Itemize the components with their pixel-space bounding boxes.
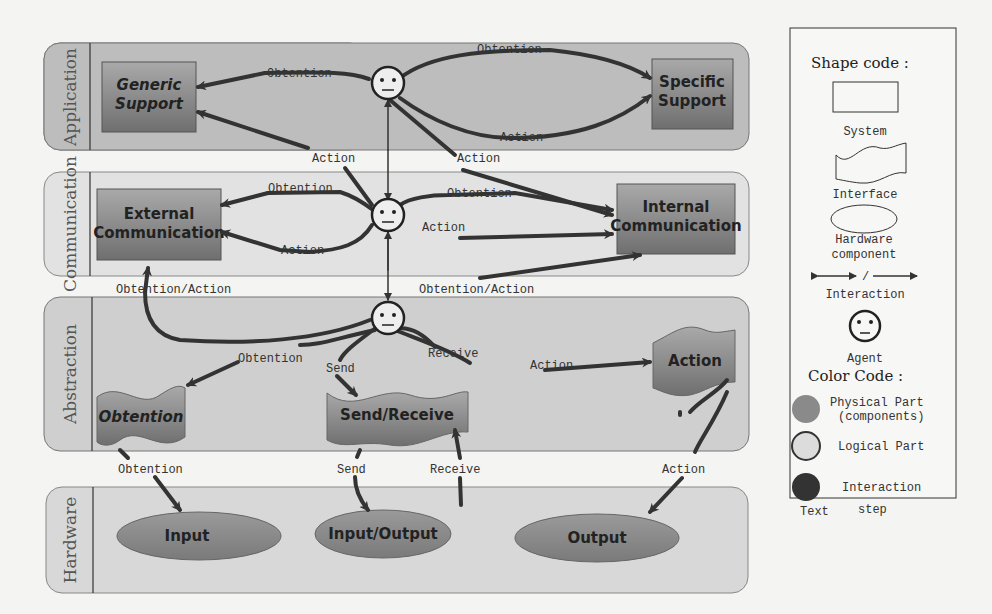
label-send-abstraction: Send bbox=[326, 362, 355, 376]
label-obtention-action-left: Obtention/Action bbox=[116, 283, 231, 297]
lane-title-hardware: Hardware bbox=[60, 497, 80, 584]
svg-text:step: step bbox=[858, 503, 887, 517]
node-external-communication[interactable]: External Communication bbox=[93, 189, 224, 260]
svg-text:External: External bbox=[124, 205, 195, 223]
label-obtention-abstraction: Obtention bbox=[238, 352, 303, 366]
legend-interaction-swatch bbox=[792, 473, 820, 501]
lane-title-abstraction: Abstraction bbox=[60, 324, 80, 425]
legend-logical-swatch bbox=[792, 432, 820, 460]
svg-text:(components): (components) bbox=[838, 410, 924, 424]
svg-text:Text: Text bbox=[800, 505, 829, 519]
svg-text:System: System bbox=[843, 125, 886, 139]
label-action-abstraction: Action bbox=[530, 359, 573, 373]
svg-text:Support: Support bbox=[658, 92, 726, 110]
svg-text:Input: Input bbox=[165, 527, 210, 545]
svg-text:Hardware: Hardware bbox=[835, 233, 893, 247]
svg-text:Communication: Communication bbox=[610, 217, 741, 235]
svg-text:Agent: Agent bbox=[847, 352, 883, 366]
agent-application[interactable] bbox=[372, 67, 404, 99]
label-action-external: Action bbox=[281, 244, 324, 258]
node-generic-support[interactable]: Generic Support bbox=[102, 62, 196, 132]
svg-text:Physical Part: Physical Part bbox=[830, 396, 924, 410]
svg-text:Color Code :: Color Code : bbox=[808, 367, 903, 385]
svg-text:Generic: Generic bbox=[117, 76, 182, 94]
svg-text:component: component bbox=[832, 248, 897, 262]
agent-abstraction[interactable] bbox=[372, 302, 404, 334]
label-obtention-hardware: Obtention bbox=[118, 463, 183, 477]
svg-text:Internal: Internal bbox=[643, 198, 710, 216]
label-obtention-action-right: Obtention/Action bbox=[419, 283, 534, 297]
label-obtention-internal: Obtention bbox=[447, 187, 512, 201]
architecture-diagram: Application Communication Abstraction Ha… bbox=[0, 0, 992, 614]
svg-text:Interface: Interface bbox=[833, 188, 898, 202]
svg-text:Logical Part: Logical Part bbox=[838, 440, 924, 454]
node-input[interactable]: Input bbox=[117, 512, 281, 560]
label-receive-hardware: Receive bbox=[430, 463, 480, 477]
label-obtention-specific: Obtention bbox=[477, 43, 542, 57]
label-action-generic: Action bbox=[312, 152, 355, 166]
legend-shape-code-title: Shape code : bbox=[811, 54, 909, 72]
node-output[interactable]: Output bbox=[515, 514, 679, 562]
svg-text:Communication: Communication bbox=[93, 224, 224, 242]
svg-text:Action: Action bbox=[668, 352, 722, 370]
agent-communication[interactable] bbox=[372, 199, 404, 231]
svg-text:Specific: Specific bbox=[659, 73, 725, 91]
lane-title-communication: Communication bbox=[60, 156, 80, 292]
label-action-hardware: Action bbox=[662, 463, 705, 477]
label-action-internal-upper: Action bbox=[457, 152, 500, 166]
label-receive-abstraction: Receive bbox=[428, 347, 478, 361]
node-internal-communication[interactable]: Internal Communication bbox=[610, 184, 741, 254]
legend-physical-swatch bbox=[792, 395, 820, 423]
label-action-internal: Action bbox=[422, 221, 465, 235]
svg-text:/: / bbox=[862, 270, 869, 284]
node-specific-support[interactable]: Specific Support bbox=[652, 59, 733, 129]
node-input-output[interactable]: Input/Output bbox=[315, 510, 451, 558]
label-send-hardware: Send bbox=[337, 463, 366, 477]
svg-text:Send/Receive: Send/Receive bbox=[340, 406, 454, 424]
svg-text:Interaction: Interaction bbox=[825, 288, 904, 302]
label-obtention-generic: Obtention bbox=[267, 67, 332, 81]
svg-text:Output: Output bbox=[567, 529, 626, 547]
svg-text:Input/Output: Input/Output bbox=[328, 525, 438, 543]
svg-text:Support: Support bbox=[115, 95, 184, 113]
svg-text:Obtention: Obtention bbox=[99, 408, 184, 426]
lane-title-application: Application bbox=[60, 48, 80, 147]
label-action-specific: Action bbox=[500, 131, 543, 145]
label-obtention-external: Obtention bbox=[268, 182, 333, 196]
legend: Shape code : System Interface Hardware c… bbox=[790, 28, 956, 519]
svg-text:Interaction: Interaction bbox=[842, 481, 921, 495]
